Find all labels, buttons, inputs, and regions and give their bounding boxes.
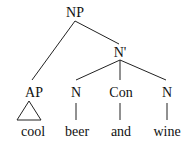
leaf-beer: beer [65,124,89,139]
edge-nbar-n1 [76,60,120,80]
triangle-icon [17,101,41,120]
node-ap: AP [25,85,43,100]
leaf-and: and [111,124,131,139]
node-np: NP [66,5,84,20]
edge-np-ap [32,21,75,80]
node-nbar: N' [114,45,127,60]
syntax-tree: NP N' AP cool N beer Con and N wine [0,0,189,143]
node-n2: N [162,85,172,100]
node-con: Con [109,85,132,100]
edge-np-nbar [75,21,119,44]
leaf-cool: cool [21,124,45,139]
leaf-wine: wine [153,124,180,139]
node-n1: N [71,85,81,100]
edge-nbar-n2 [120,60,166,80]
